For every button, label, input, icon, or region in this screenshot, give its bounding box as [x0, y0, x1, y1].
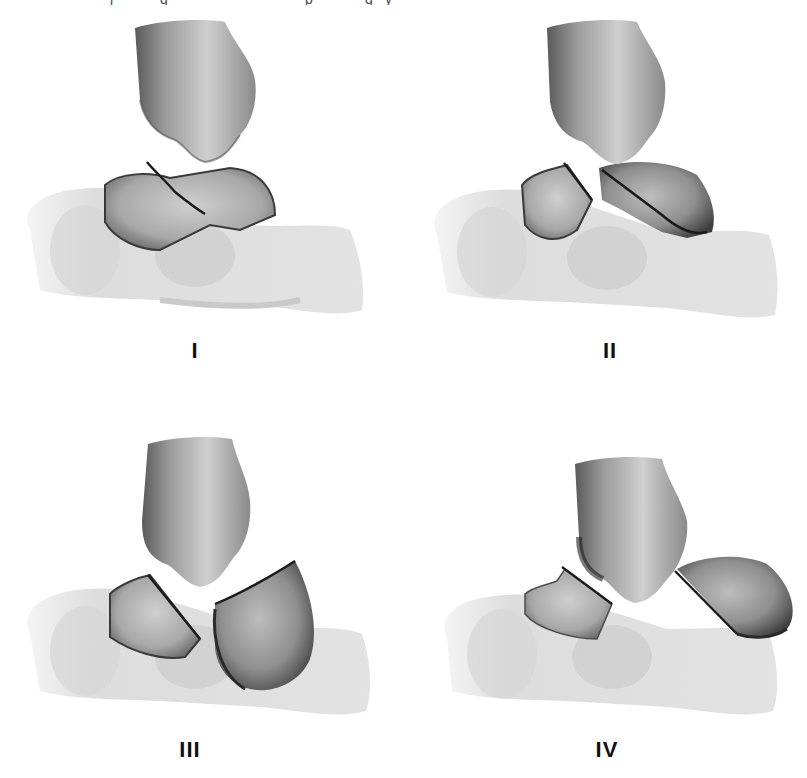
- panel-type-1: I: [0, 0, 400, 389]
- panel-type-4: IV: [407, 389, 807, 778]
- panel-label: I: [191, 338, 198, 364]
- panel-label: IV: [596, 737, 619, 763]
- foot-bones-illustration: [407, 0, 807, 389]
- foot-bones-illustration: [407, 389, 807, 778]
- panel-type-2: II: [407, 0, 807, 389]
- panel-label: III: [179, 737, 200, 763]
- panel-type-3: III: [0, 389, 400, 778]
- panel-label: II: [603, 338, 617, 364]
- foot-bones-illustration: [0, 0, 400, 389]
- foot-bones-illustration: [0, 389, 400, 778]
